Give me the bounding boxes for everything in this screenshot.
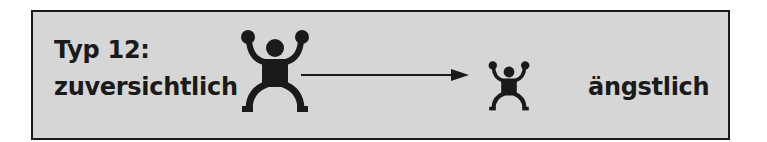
arrow-right-icon (301, 68, 469, 82)
type-label: Typ 12: (54, 35, 150, 65)
small-figure-icon (488, 60, 530, 114)
from-label: zuversichtlich (54, 72, 238, 102)
diagram-box: Typ 12: zuversichtlich (31, 10, 730, 140)
large-figure-icon (240, 28, 310, 118)
to-label: ängstlich (588, 72, 709, 102)
